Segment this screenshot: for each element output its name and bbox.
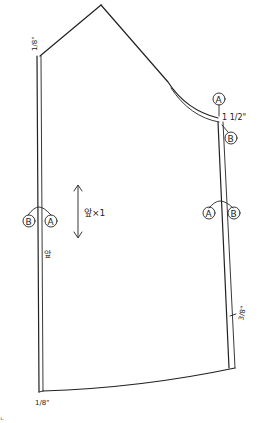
neckline-left-edge xyxy=(40,5,101,56)
grainline-arrow xyxy=(74,185,82,238)
armhole-allowance-line xyxy=(171,88,219,122)
notch-b-top-right: B xyxy=(225,132,237,144)
right-seam-line xyxy=(218,122,229,368)
svg-text:B: B xyxy=(231,209,237,219)
corner-mark: ㄴ xyxy=(0,415,5,421)
notch-b-right: B xyxy=(228,207,240,219)
top-left-allowance-label: 1/8" xyxy=(31,37,39,52)
hem-corner-left xyxy=(39,391,43,392)
svg-text:A: A xyxy=(206,209,213,219)
pattern-drawing: 앞×1 1/8" 1/8" 1 1/2" 3/8" 앞 A B B A A B … xyxy=(0,0,258,423)
notch-a-top-right: A xyxy=(213,93,225,105)
bottom-left-allowance-label: 1/8" xyxy=(35,399,50,407)
left-seam-line xyxy=(37,56,39,392)
svg-text:A: A xyxy=(48,217,55,227)
hem-curve xyxy=(43,368,235,391)
left-notch-leaders xyxy=(28,207,51,215)
grainline-label: 앞×1 xyxy=(84,207,105,218)
notch-a-right: A xyxy=(203,207,215,219)
left-notch-mark: 앞 xyxy=(44,249,52,259)
right-seam-allowance xyxy=(223,122,235,368)
svg-text:B: B xyxy=(26,217,32,227)
svg-text:B: B xyxy=(228,134,234,144)
notch-b-left: B xyxy=(23,215,35,227)
left-seam-allowance xyxy=(41,56,43,391)
notch-a-left: A xyxy=(45,215,57,227)
right-lower-allowance-label: 3/8" xyxy=(237,305,247,321)
svg-text:A: A xyxy=(216,95,223,105)
armhole-curve xyxy=(101,5,218,118)
right-lower-allowance-tick xyxy=(230,314,236,316)
right-shoulder-allowance-label: 1 1/2" xyxy=(222,113,246,122)
